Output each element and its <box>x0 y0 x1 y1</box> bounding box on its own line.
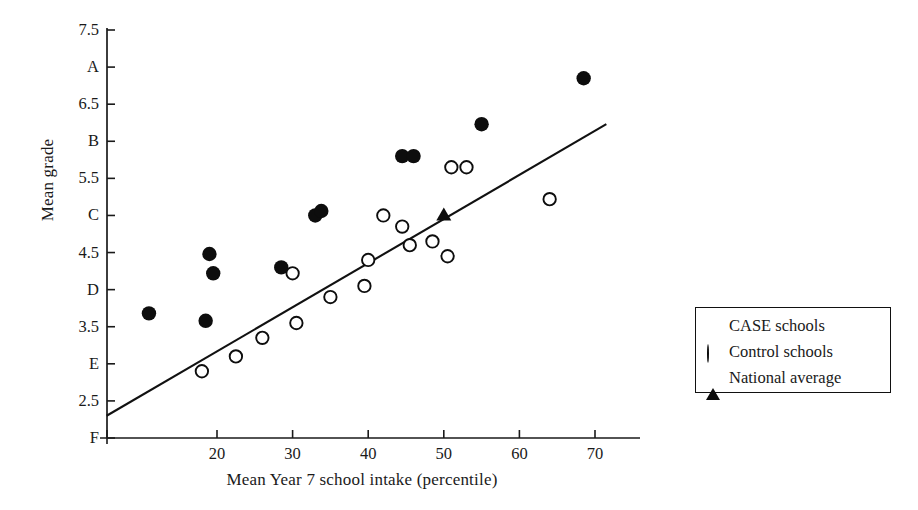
y-tick-label: B <box>51 133 99 150</box>
x-tick-label: 40 <box>348 446 388 463</box>
axis-tick-marks <box>107 30 595 444</box>
scatter-chart-figure: Mean grade Mean Year 7 school intake (pe… <box>0 0 918 510</box>
y-tick-label: 2.5 <box>51 393 99 410</box>
legend-item-control-schools: Control schools <box>706 339 833 365</box>
legend-label: National average <box>729 370 841 387</box>
x-tick-label: 70 <box>575 446 615 463</box>
x-tick-label: 20 <box>197 446 237 463</box>
data-points <box>142 71 591 377</box>
legend-label: CASE schools <box>729 318 825 335</box>
trend-line <box>107 124 607 416</box>
legend-item-national-average: National average <box>706 365 841 391</box>
y-tick-label: D <box>51 282 99 299</box>
y-tick-label: F <box>51 430 99 447</box>
filled-circle-icon <box>706 319 720 333</box>
y-tick-label: 3.5 <box>51 319 99 336</box>
y-tick-label: 7.5 <box>51 22 99 39</box>
open-circle-icon <box>706 345 720 359</box>
y-tick-label: C <box>51 207 99 224</box>
y-tick-label: 6.5 <box>51 96 99 113</box>
y-tick-label: A <box>51 59 99 76</box>
axis-lines <box>100 28 640 438</box>
y-tick-label: E <box>51 356 99 373</box>
y-tick-label: 5.5 <box>51 170 99 187</box>
x-tick-label: 30 <box>273 446 313 463</box>
legend-item-case-schools: CASE schools <box>706 313 825 339</box>
plot-area <box>0 0 918 510</box>
legend-label: Control schools <box>729 344 833 361</box>
x-tick-label: 60 <box>499 446 539 463</box>
x-tick-label: 50 <box>424 446 464 463</box>
legend: CASE schools Control schools National av… <box>695 307 891 393</box>
triangle-icon <box>706 371 720 385</box>
y-tick-label: 4.5 <box>51 245 99 262</box>
x-axis-title: Mean Year 7 school intake (percentile) <box>107 470 617 490</box>
